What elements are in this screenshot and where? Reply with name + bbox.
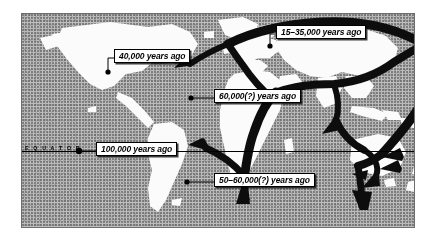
callout-asia: 60,000(?) years ago <box>214 89 301 103</box>
world-map: E Q U A T O R <box>21 13 415 228</box>
callout-australia: 50–60,000(?) years ago <box>214 173 315 187</box>
equator-label: E Q U A T O R <box>25 145 81 151</box>
callout-europe: 40,000 years ago <box>114 49 190 63</box>
callout-americas: 15–35,000 years ago <box>276 25 366 39</box>
callout-africa: 100,000 years ago <box>96 142 177 156</box>
equator-line <box>22 151 414 152</box>
figure-root: E Q U A T O R 15–35,000 years ago 40,000… <box>0 0 435 242</box>
map-graphics <box>22 14 414 227</box>
